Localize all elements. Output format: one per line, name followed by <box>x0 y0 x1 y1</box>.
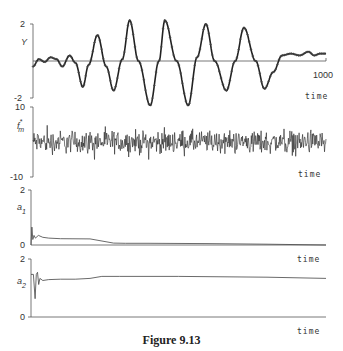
ylabel-fm: f*m <box>17 118 24 133</box>
ytick-2: 2 <box>20 19 25 29</box>
xlabel-time: time <box>305 92 328 101</box>
ylabel-y: Y <box>21 37 28 47</box>
ytick-0: 0 <box>20 240 25 250</box>
panel-a1: 2 0 a1 time <box>17 185 326 264</box>
a1-series-line <box>31 227 326 245</box>
figure-canvas: 2 -2 Y 1000 time 10 -10 f*m time 2 0 a1 … <box>0 0 343 351</box>
ytick-10: 10 <box>15 102 25 112</box>
panel-noise: 10 -10 f*m time <box>10 102 326 182</box>
ytick-2: 2 <box>20 254 25 264</box>
ylabel-a1: a1 <box>17 202 26 215</box>
panel-a2: 2 0 a2 time <box>17 254 326 336</box>
noise-series-line <box>33 125 326 159</box>
ytick-neg10: -10 <box>10 172 23 182</box>
xlabel-time: time <box>297 255 320 264</box>
figure-caption: Figure 9.13 <box>0 333 343 348</box>
xlabel-time: time <box>298 170 321 179</box>
a2-series-line <box>31 272 326 298</box>
y-series-line <box>33 20 326 105</box>
ytick-2: 2 <box>20 185 25 195</box>
xtick-1000: 1000 <box>313 70 333 80</box>
panel-y: 2 -2 Y 1000 time <box>14 19 333 106</box>
ytick-0: 0 <box>20 312 25 322</box>
y-series-markers <box>32 19 326 106</box>
ylabel-a2: a2 <box>17 276 26 289</box>
